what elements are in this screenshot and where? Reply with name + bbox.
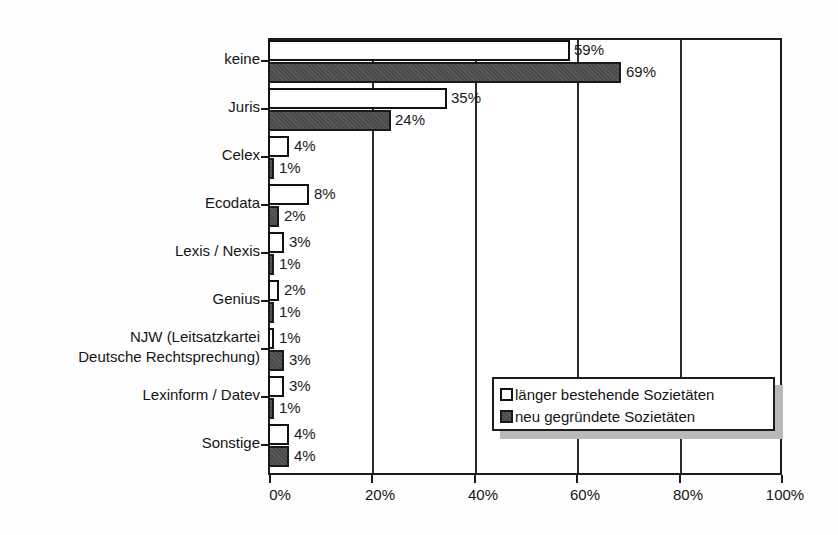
bar-series-a bbox=[268, 376, 284, 397]
category-label-lexis-nexis: Lexis / Nexis bbox=[175, 242, 260, 260]
y-axis-tick bbox=[261, 204, 268, 206]
category-label-sonstige: Sonstige bbox=[202, 434, 260, 452]
x-axis-tick bbox=[679, 475, 681, 483]
category-label-ecodata: Ecodata bbox=[205, 194, 260, 212]
bar-series-b bbox=[268, 302, 274, 323]
bar-value-series-a: 3% bbox=[289, 378, 311, 393]
category-label-keine: keine bbox=[224, 50, 260, 68]
x-axis-label-40: 40% bbox=[468, 486, 498, 503]
white-square-icon bbox=[500, 388, 513, 401]
bar-value-series-a: 35% bbox=[451, 90, 481, 105]
category-row: 59% 69% bbox=[268, 38, 782, 86]
bar-series-a bbox=[268, 40, 570, 61]
category-row: 8% 2% bbox=[268, 182, 782, 230]
x-axis-tick bbox=[781, 475, 783, 483]
x-axis-tick bbox=[474, 475, 476, 483]
legend-entry-series-b: neu gegründete Sozietäten bbox=[500, 405, 773, 427]
bar-value-series-a: 3% bbox=[289, 234, 311, 249]
bar-series-b bbox=[268, 110, 391, 131]
bar-series-a bbox=[268, 328, 274, 349]
category-row: 1% 3% bbox=[268, 326, 782, 374]
category-label-genius: Genius bbox=[212, 290, 260, 308]
x-axis-label-0: 0% bbox=[269, 486, 291, 503]
bar-value-series-b: 3% bbox=[289, 352, 311, 367]
legend-label-series-b: neu gegründete Sozietäten bbox=[515, 408, 695, 425]
y-axis-tick bbox=[261, 396, 268, 398]
bar-value-series-b: 1% bbox=[279, 400, 301, 415]
bar-value-series-a: 4% bbox=[294, 138, 316, 153]
y-axis-tick bbox=[261, 60, 268, 62]
bar-chart: 59% 69% 35% 24% 4% 1% 8% 2% bbox=[0, 0, 838, 535]
y-axis-tick bbox=[261, 300, 268, 302]
category-label-celex: Celex bbox=[222, 146, 260, 164]
bar-series-b bbox=[268, 254, 274, 275]
bar-value-series-a: 2% bbox=[284, 282, 306, 297]
bar-value-series-b: 1% bbox=[279, 304, 301, 319]
category-row: 2% 1% bbox=[268, 278, 782, 326]
bar-series-b bbox=[268, 398, 274, 419]
category-label-njw-line1: NJW (Leitsatzkartei bbox=[130, 328, 260, 346]
bar-series-b bbox=[268, 62, 621, 83]
bar-series-a bbox=[268, 136, 289, 157]
y-axis-tick bbox=[261, 348, 268, 350]
category-label-lexinform-datev: Lexinform / Datev bbox=[142, 386, 260, 404]
x-axis-tick bbox=[269, 475, 271, 483]
y-axis-tick bbox=[261, 108, 268, 110]
bar-series-a bbox=[268, 280, 279, 301]
bar-series-b bbox=[268, 158, 274, 179]
y-axis-tick bbox=[261, 156, 268, 158]
legend-label-series-a: länger bestehende Sozietäten bbox=[515, 386, 714, 403]
bar-series-b bbox=[268, 446, 289, 467]
bar-value-series-b: 4% bbox=[294, 448, 316, 463]
y-axis-tick bbox=[261, 444, 268, 446]
y-axis-tick bbox=[261, 252, 268, 254]
bar-series-a bbox=[268, 88, 447, 109]
chart-legend: länger bestehende Sozietäten neu gegründ… bbox=[492, 377, 775, 431]
bar-series-a bbox=[268, 424, 289, 445]
x-axis-label-60: 60% bbox=[570, 486, 600, 503]
dark-square-icon bbox=[500, 410, 513, 423]
x-axis-label-80: 80% bbox=[673, 486, 703, 503]
category-row: 4% 1% bbox=[268, 134, 782, 182]
bar-value-series-a: 4% bbox=[294, 426, 316, 441]
x-axis-tick bbox=[576, 475, 578, 483]
bar-value-series-a: 8% bbox=[314, 186, 336, 201]
bar-series-b bbox=[268, 206, 279, 227]
category-label-juris: Juris bbox=[228, 98, 260, 116]
x-axis-label-100: 100% bbox=[766, 486, 804, 503]
category-row: 35% 24% bbox=[268, 86, 782, 134]
bar-series-a bbox=[268, 232, 284, 253]
bar-value-series-b: 1% bbox=[279, 256, 301, 271]
bar-series-a bbox=[268, 184, 309, 205]
legend-entry-series-a: länger bestehende Sozietäten bbox=[500, 383, 773, 405]
x-axis-tick bbox=[371, 475, 373, 483]
bar-value-series-b: 2% bbox=[284, 208, 306, 223]
x-axis-label-20: 20% bbox=[365, 486, 395, 503]
bar-value-series-b: 1% bbox=[279, 160, 301, 175]
bar-value-series-a: 1% bbox=[279, 330, 301, 345]
bar-value-series-b: 69% bbox=[626, 64, 656, 79]
bar-value-series-a: 59% bbox=[574, 42, 604, 57]
bar-value-series-b: 24% bbox=[395, 112, 425, 127]
bar-series-b bbox=[268, 350, 284, 371]
category-row: 3% 1% bbox=[268, 230, 782, 278]
category-label-njw-line2: Deutsche Rechtsprechung) bbox=[78, 348, 260, 366]
